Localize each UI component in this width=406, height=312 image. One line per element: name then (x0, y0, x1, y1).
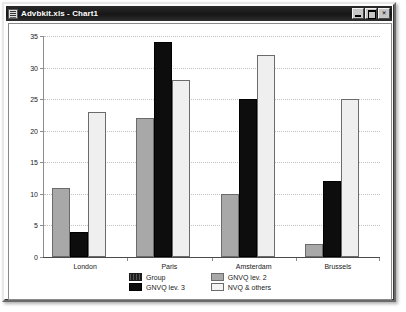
bar[interactable] (154, 42, 172, 257)
legend-label: Group (146, 274, 165, 281)
bar[interactable] (172, 80, 190, 257)
legend-item[interactable]: GNVQ lev. 2 (211, 273, 271, 281)
x-axis-tick (296, 258, 297, 261)
y-axis-tick-label: 20 (30, 127, 38, 134)
x-axis-category-label: London (73, 263, 96, 270)
legend-label: GNVQ lev. 2 (228, 274, 267, 281)
minimize-button[interactable] (352, 8, 364, 19)
titlebar-drag-region[interactable] (98, 6, 352, 21)
window-controls: ✕ (352, 8, 391, 19)
legend-item[interactable]: Group (129, 273, 185, 281)
plot-frame: 05101520253035 LondonParisAmsterdamBruss… (43, 36, 380, 258)
y-axis-tick-label: 25 (30, 96, 38, 103)
chart-canvas[interactable]: 05101520253035 LondonParisAmsterdamBruss… (8, 23, 392, 300)
bar-group: Paris (127, 35, 211, 257)
bar[interactable] (323, 181, 341, 257)
y-axis-tick-label: 5 (34, 222, 38, 229)
legend-item[interactable]: GNVQ lev. 3 (129, 283, 185, 291)
bar[interactable] (70, 232, 88, 257)
y-axis-tick-label: 30 (30, 64, 38, 71)
y-axis-tick (40, 257, 43, 258)
x-axis-category-label: Amsterdam (236, 263, 272, 270)
excel-document-icon[interactable] (8, 9, 18, 19)
legend-color-swatch (129, 283, 142, 291)
x-axis-category-label: Brussels (324, 263, 351, 270)
maximize-button[interactable] (365, 8, 377, 19)
legend-label: GNVQ lev. 3 (146, 284, 185, 291)
window-title: Advbkit.xls - Chart1 (21, 9, 98, 18)
plot-area[interactable]: 05101520253035 LondonParisAmsterdamBruss… (43, 36, 380, 258)
legend-color-swatch (211, 273, 224, 281)
y-axis-tick-label: 0 (34, 254, 38, 261)
legend-label: NVQ & others (228, 284, 271, 291)
y-axis-tick-label: 35 (30, 33, 38, 40)
y-axis-tick-label: 10 (30, 190, 38, 197)
legend-item[interactable]: NVQ & others (211, 283, 271, 291)
bar[interactable] (52, 188, 70, 257)
bar[interactable] (257, 55, 275, 257)
bar-group: Brussels (296, 35, 380, 257)
bar[interactable] (221, 194, 239, 257)
bar-group: Amsterdam (212, 35, 296, 257)
x-axis-tick (212, 258, 213, 261)
bar-group: London (43, 35, 127, 257)
x-axis-tick (127, 258, 128, 261)
bar[interactable] (305, 244, 323, 257)
window-inner-frame: Advbkit.xls - Chart1 ✕ 05101520253035 Lo… (4, 4, 394, 300)
bar[interactable] (239, 99, 257, 257)
x-axis-tick (379, 258, 380, 261)
window-titlebar[interactable]: Advbkit.xls - Chart1 ✕ (6, 6, 392, 21)
close-button[interactable]: ✕ (378, 8, 390, 19)
chart-legend[interactable]: GroupGNVQ lev. 2GNVQ lev. 3NVQ & others (9, 273, 391, 291)
chart-window: Advbkit.xls - Chart1 ✕ 05101520253035 Lo… (2, 2, 396, 302)
bar[interactable] (136, 118, 154, 257)
legend-color-swatch (211, 283, 224, 291)
y-axis-tick-label: 15 (30, 159, 38, 166)
x-axis-category-label: Paris (161, 263, 177, 270)
legend-color-swatch (129, 273, 142, 281)
bar[interactable] (88, 112, 106, 257)
bar[interactable] (341, 99, 359, 257)
legend-grid: GroupGNVQ lev. 2GNVQ lev. 3NVQ & others (129, 273, 271, 291)
